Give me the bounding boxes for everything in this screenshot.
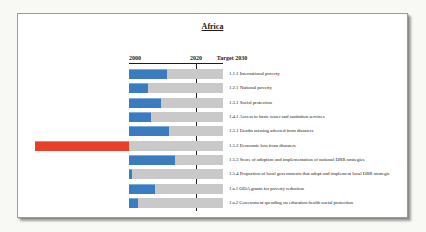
- chart-row: 1.5.3 Score of adoption and implementati…: [18, 153, 407, 167]
- regression-bar: [35, 141, 129, 151]
- progress-bar: [129, 126, 169, 136]
- indicator-label: 1.3.1 Social protection: [229, 98, 272, 108]
- progress-bar: [129, 198, 138, 208]
- progress-bar: [129, 184, 155, 194]
- indicator-label: 1.a.1 ODA grants for poverty reduction: [229, 184, 304, 194]
- axis-label-target-2030: Target 2030: [217, 55, 247, 62]
- chart-row: 1.2.1 National poverty: [18, 81, 407, 95]
- axis-label-2000: 2000: [129, 55, 141, 62]
- chart-row: 1.a.1 ODA grants for poverty reduction: [18, 182, 407, 196]
- indicator-label: 1.5.4 Proportion of local governments th…: [229, 169, 390, 179]
- bar-track: [129, 126, 223, 136]
- indicator-label: 1.5.3 Score of adoption and implementati…: [229, 155, 364, 165]
- indicator-label: 1.2.1 National poverty: [229, 83, 272, 93]
- bar-track: [129, 169, 223, 179]
- bar-track: [129, 198, 223, 208]
- chart-row: 1.5.4 Proportion of local governments th…: [18, 167, 407, 181]
- progress-bar: [129, 69, 167, 79]
- report-page-card: Africa 2000 2020 Target 2030 1.1.1 Inter…: [17, 13, 408, 218]
- progress-bar: [129, 155, 175, 165]
- chart-row: 1.4.1 Access to basic water and sanitati…: [18, 110, 407, 124]
- axis-label-2020: 2020: [190, 55, 202, 62]
- chart-rows: 1.1.1 International poverty1.2.1 Nationa…: [18, 67, 407, 210]
- bar-track: [129, 69, 223, 79]
- progress-bar: [129, 169, 132, 179]
- progress-bar: [129, 98, 161, 108]
- progress-bar: [129, 83, 148, 93]
- africa-progress-chart: Africa 2000 2020 Target 2030 1.1.1 Inter…: [18, 14, 407, 217]
- axis-baseline: [129, 63, 223, 64]
- indicator-label: 1.5.1 Deaths missing affected from disas…: [229, 126, 313, 136]
- indicator-label: 1.4.1 Access to basic water and sanitati…: [229, 112, 325, 122]
- chart-row: 1.1.1 International poverty: [18, 67, 407, 81]
- progress-bar: [129, 112, 151, 122]
- bar-track: [129, 83, 223, 93]
- bar-track: [129, 155, 223, 165]
- indicator-label: 1.1.1 International poverty: [229, 69, 280, 79]
- chart-row: 1.5.1 Deaths missing affected from disas…: [18, 124, 407, 138]
- indicator-label: 1.5.2 Economic loss from disasters: [229, 141, 296, 151]
- bar-track: [129, 184, 223, 194]
- bar-track: [129, 141, 223, 151]
- chart-title: Africa: [18, 22, 407, 31]
- chart-row: 1.5.2 Economic loss from disasters: [18, 139, 407, 153]
- chart-row: 1.3.1 Social protection: [18, 96, 407, 110]
- chart-row: 1.a.2 Government spending on education h…: [18, 196, 407, 210]
- bar-track: [129, 112, 223, 122]
- indicator-label: 1.a.2 Government spending on education h…: [229, 198, 353, 208]
- bar-track: [129, 98, 223, 108]
